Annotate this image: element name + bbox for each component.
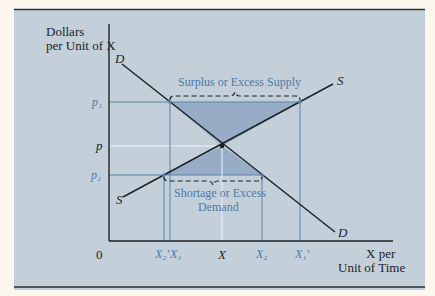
quantity-label-x1: X₁	[170, 248, 182, 260]
quantity-label-x: X	[218, 248, 226, 261]
diagram-frame: Dollars per Unit of X D D S S p₁ p p₂ 0 …	[0, 0, 435, 296]
shortage-annotation-line1: Shortage or Excess	[174, 187, 266, 199]
x-axis-label-line2: Unit of Time	[338, 261, 405, 274]
point-x2-p2	[260, 173, 264, 177]
y-axis-label-line1: Dollars	[46, 25, 84, 38]
supply-label-top: S	[337, 74, 344, 87]
origin-label: 0	[96, 248, 103, 261]
price-label-p1: p₁	[92, 96, 102, 108]
quantity-label-x1-prime: X₁'	[295, 248, 309, 260]
supply-label-bottom: S	[116, 193, 123, 206]
price-label-p2: p₂	[91, 169, 101, 181]
shortage-annotation-line2: Demand	[198, 201, 239, 213]
point-x1prime-p1	[298, 100, 302, 104]
quantity-label-x2-prime: X₂'	[155, 248, 169, 260]
x-axis-label-line1: X per	[366, 247, 395, 260]
demand-label-bottom: D	[338, 226, 347, 239]
demand-label-top: D	[115, 52, 124, 65]
point-x2prime-p2	[162, 173, 166, 177]
quantity-label-x2: X₂	[256, 248, 268, 260]
point-x1-p1	[168, 100, 172, 104]
equilibrium-point	[220, 144, 225, 149]
price-label-p: p	[96, 139, 103, 152]
y-axis-label-line2: per Unit of X	[46, 39, 116, 52]
surplus-annotation: Surplus or Excess Supply	[178, 76, 301, 88]
